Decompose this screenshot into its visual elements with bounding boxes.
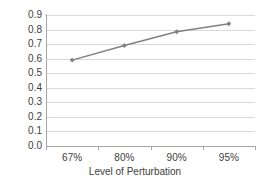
x-axis-tick-label: 67%	[62, 152, 82, 164]
gridline	[46, 44, 255, 45]
x-axis-tick-label: 80%	[114, 152, 134, 164]
y-axis-tick-label: 0.8	[14, 25, 42, 35]
y-axis-tick-label: 0.7	[14, 39, 42, 49]
y-axis-tick-label: 0.0	[14, 141, 42, 151]
x-axis-tick-label: 95%	[219, 152, 239, 164]
line-chart: 0.90.80.70.60.50.40.30.20.10.0 67%80%90%…	[0, 0, 270, 184]
y-axis-line	[46, 14, 47, 147]
x-axis-tick	[255, 146, 256, 150]
gridline	[46, 30, 255, 31]
x-axis-tick-labels: 67%80%90%95%	[46, 152, 255, 166]
gridline	[46, 88, 255, 89]
y-axis-tick-label: 0.4	[14, 83, 42, 93]
gridline	[46, 131, 255, 132]
gridline	[46, 59, 255, 60]
y-axis-tick-label: 0.5	[14, 68, 42, 78]
x-axis-tick	[203, 146, 204, 150]
gridline	[46, 15, 255, 16]
x-axis-tick	[46, 146, 47, 150]
y-axis-tick-label: 0.1	[14, 126, 42, 136]
y-axis-tick-labels: 0.90.80.70.60.50.40.30.20.10.0	[12, 0, 42, 184]
y-axis-tick-label: 0.9	[14, 10, 42, 20]
y-axis-tick-label: 0.2	[14, 112, 42, 122]
plot-area	[46, 15, 255, 146]
gridline	[46, 73, 255, 74]
x-axis-tick	[151, 146, 152, 150]
x-axis-tick-label: 90%	[167, 152, 187, 164]
gridline	[46, 102, 255, 103]
y-axis-tick-label: 0.6	[14, 54, 42, 64]
gridline	[46, 117, 255, 118]
y-axis-tick-label: 0.3	[14, 97, 42, 107]
x-axis-title: Level of Perturbation	[0, 166, 270, 178]
x-axis-tick	[98, 146, 99, 150]
